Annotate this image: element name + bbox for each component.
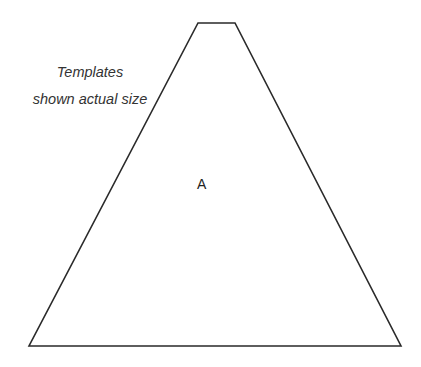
template-shape-a [29, 23, 401, 346]
shape-label: A [197, 176, 206, 192]
template-diagram [0, 0, 421, 367]
